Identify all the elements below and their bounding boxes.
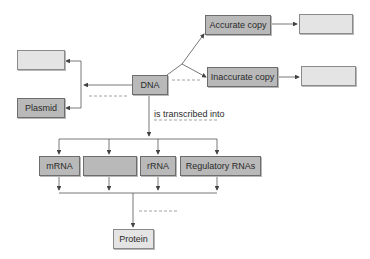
blank-box-left-top <box>17 50 65 70</box>
transcription-label: is transcribed into <box>154 109 225 119</box>
connector-lines <box>0 0 370 259</box>
mrna-box: mRNA <box>39 156 80 176</box>
plasmid-box: Plasmid <box>17 98 65 118</box>
blank-box-inaccurate-result <box>301 66 356 86</box>
protein-box: Protein <box>113 229 154 249</box>
inaccurate-copy-box: Inaccurate copy <box>207 67 278 87</box>
accurate-copy-box: Accurate copy <box>205 15 271 35</box>
regulatory-rnas-box: Regulatory RNAs <box>180 156 261 176</box>
blank-box-accurate-result <box>299 14 353 34</box>
blank-rna-box <box>83 156 137 176</box>
dna-box: DNA <box>132 75 168 95</box>
rrna-box: rRNA <box>140 156 176 176</box>
